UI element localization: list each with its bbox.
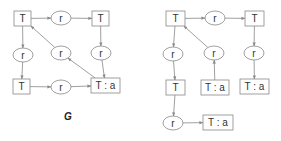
relation-node: r bbox=[163, 47, 183, 61]
edge-arrow bbox=[214, 60, 215, 80]
node-label: T bbox=[172, 13, 178, 24]
edges bbox=[22, 18, 255, 123]
relation-node: r bbox=[51, 46, 71, 60]
edge-arrow bbox=[173, 95, 174, 116]
node-label: T : a bbox=[96, 80, 116, 91]
type-node: T bbox=[14, 11, 31, 26]
edge-arrow bbox=[102, 60, 104, 78]
node-label: T : a bbox=[245, 81, 265, 92]
graph-label-g: G bbox=[64, 111, 72, 122]
type-node: T : a bbox=[203, 115, 233, 130]
edge-arrow bbox=[173, 26, 174, 47]
node-label: T bbox=[97, 13, 103, 24]
type-node: T bbox=[92, 11, 109, 26]
node-label: T bbox=[172, 82, 178, 93]
type-node: T bbox=[166, 80, 185, 95]
edge-arrow bbox=[22, 62, 23, 79]
relation-node: r bbox=[51, 80, 71, 94]
relation-node: r bbox=[204, 46, 224, 60]
relation-node: r bbox=[91, 46, 111, 60]
edge-arrow bbox=[68, 58, 95, 78]
edge-arrow bbox=[31, 26, 55, 47]
edge-arrow bbox=[71, 86, 91, 87]
type-node: T bbox=[13, 79, 30, 94]
diagram-canvas: TrTrrrTrT : aTrTrrrTT : aT : arT : a G bbox=[0, 0, 281, 141]
type-node: T : a bbox=[201, 80, 229, 95]
relation-node: r bbox=[205, 11, 225, 25]
type-node: T bbox=[245, 11, 264, 26]
edge-arrow bbox=[184, 26, 208, 47]
type-node: T : a bbox=[240, 79, 269, 94]
relation-node: r bbox=[51, 11, 71, 25]
type-node: T bbox=[166, 11, 185, 26]
edge-arrow bbox=[174, 61, 175, 80]
relation-node: r bbox=[163, 116, 183, 130]
relation-node: r bbox=[13, 48, 33, 62]
node-label: T bbox=[251, 13, 257, 24]
nodes: TrTrrrTrT : aTrTrrrTT : aT : arT : a bbox=[13, 11, 269, 130]
node-label: T : a bbox=[205, 82, 225, 93]
type-node: T : a bbox=[91, 78, 120, 93]
relation-node: r bbox=[244, 46, 264, 60]
node-label: T bbox=[19, 13, 25, 24]
node-label: T bbox=[18, 81, 24, 92]
node-label: T : a bbox=[208, 117, 228, 128]
